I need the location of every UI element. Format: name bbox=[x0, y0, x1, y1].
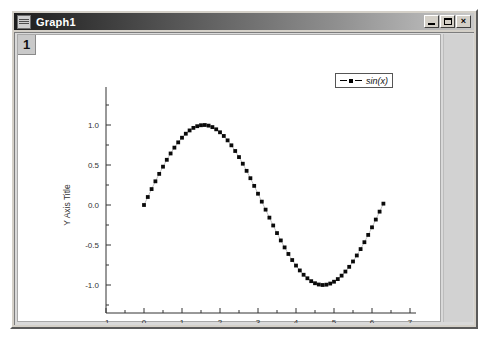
data-point bbox=[195, 124, 199, 128]
data-point bbox=[340, 274, 344, 278]
data-point bbox=[374, 218, 378, 222]
data-point bbox=[157, 172, 161, 176]
page-right-margin bbox=[443, 34, 473, 322]
data-point bbox=[180, 136, 184, 140]
data-point bbox=[184, 132, 188, 136]
data-point bbox=[268, 216, 272, 220]
data-point bbox=[226, 138, 230, 142]
data-point bbox=[271, 224, 275, 228]
data-point bbox=[169, 152, 173, 156]
maximize-button[interactable] bbox=[440, 15, 455, 28]
data-point bbox=[222, 134, 226, 138]
data-point bbox=[211, 125, 215, 129]
data-point bbox=[306, 276, 310, 280]
data-point bbox=[176, 140, 180, 144]
data-point bbox=[351, 260, 355, 264]
window-client-area: 1 sin(x) -101234567-1.0-0.50.00.51.0 X A… bbox=[14, 32, 474, 325]
minimize-button[interactable] bbox=[424, 15, 439, 28]
data-point bbox=[173, 146, 177, 150]
data-point bbox=[199, 123, 203, 127]
data-point bbox=[192, 126, 196, 130]
data-point bbox=[287, 252, 291, 256]
data-point bbox=[321, 283, 325, 287]
data-point bbox=[233, 149, 237, 153]
x-tick-label: 1 bbox=[180, 318, 185, 323]
data-point bbox=[241, 162, 245, 166]
graph-window-icon[interactable] bbox=[17, 15, 31, 29]
data-point bbox=[256, 192, 260, 196]
data-point bbox=[328, 282, 332, 286]
data-point bbox=[203, 123, 207, 127]
data-point bbox=[154, 179, 158, 183]
plot-area[interactable]: -101234567-1.0-0.50.00.51.0 X Axis Title… bbox=[18, 35, 442, 323]
data-point bbox=[378, 210, 382, 214]
data-point bbox=[317, 283, 321, 287]
data-point bbox=[302, 273, 306, 277]
data-point bbox=[332, 280, 336, 284]
x-tick-label: 3 bbox=[256, 318, 261, 323]
x-tick-label: 0 bbox=[142, 318, 147, 323]
y-tick-label: 0.5 bbox=[88, 161, 100, 170]
data-point bbox=[275, 231, 279, 235]
y-tick-label: 1.0 bbox=[88, 121, 100, 130]
data-point bbox=[336, 277, 340, 281]
data-point bbox=[294, 264, 298, 268]
chart-series-sin bbox=[142, 123, 385, 287]
x-tick-label: 2 bbox=[218, 318, 223, 323]
x-tick-label: 4 bbox=[294, 318, 299, 323]
data-point bbox=[252, 184, 256, 188]
data-point bbox=[279, 239, 283, 243]
data-point bbox=[214, 127, 218, 131]
data-point bbox=[347, 265, 351, 269]
y-tick-label: -0.5 bbox=[85, 241, 99, 250]
data-point bbox=[161, 165, 165, 169]
data-point bbox=[249, 176, 253, 180]
data-point bbox=[146, 195, 150, 199]
y-tick-label: 0.0 bbox=[88, 201, 100, 210]
data-point bbox=[150, 187, 154, 191]
y-axis-title: Y Axis Title bbox=[62, 184, 72, 226]
data-point bbox=[188, 129, 192, 133]
data-point bbox=[230, 143, 234, 147]
data-point bbox=[290, 258, 294, 262]
data-point bbox=[298, 269, 302, 273]
window-title: Graph1 bbox=[36, 16, 76, 28]
data-point bbox=[237, 155, 241, 159]
data-point bbox=[207, 124, 211, 128]
chart-ticks bbox=[106, 105, 410, 313]
window-titlebar[interactable]: Graph1 × bbox=[14, 13, 474, 30]
data-point bbox=[344, 270, 348, 274]
data-point bbox=[283, 246, 287, 250]
data-point bbox=[366, 233, 370, 237]
data-point bbox=[382, 202, 386, 206]
data-point bbox=[165, 158, 169, 162]
data-point bbox=[370, 225, 374, 229]
data-point bbox=[245, 169, 249, 173]
x-tick-label: 5 bbox=[332, 318, 337, 323]
data-point bbox=[264, 208, 268, 212]
x-tick-label: 6 bbox=[370, 318, 375, 323]
data-point bbox=[313, 281, 317, 285]
data-point bbox=[355, 254, 359, 258]
graph-window: Graph1 × 1 sin(x) bbox=[10, 9, 478, 329]
data-point bbox=[359, 247, 363, 251]
close-button[interactable]: × bbox=[456, 15, 471, 28]
data-point bbox=[260, 200, 264, 204]
x-tick-label: -1 bbox=[102, 318, 110, 323]
data-point bbox=[363, 240, 367, 244]
window-controls: × bbox=[424, 15, 471, 28]
data-point bbox=[309, 279, 313, 283]
y-tick-label: -1.0 bbox=[85, 281, 99, 290]
data-point bbox=[218, 130, 222, 134]
data-point bbox=[325, 283, 329, 287]
chart-svg: -101234567-1.0-0.50.00.51.0 X Axis Title… bbox=[18, 35, 442, 323]
data-point bbox=[142, 203, 146, 207]
graph-page[interactable]: 1 sin(x) -101234567-1.0-0.50.00.51.0 X A… bbox=[17, 34, 441, 322]
x-tick-label: 7 bbox=[408, 318, 413, 323]
chart-tick-labels: -101234567-1.0-0.50.00.51.0 bbox=[85, 121, 413, 323]
